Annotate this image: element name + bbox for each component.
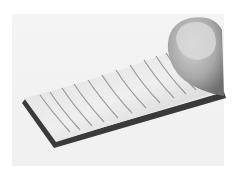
- flexible-strip-photo: [0, 0, 235, 179]
- photo-frame: [0, 0, 235, 179]
